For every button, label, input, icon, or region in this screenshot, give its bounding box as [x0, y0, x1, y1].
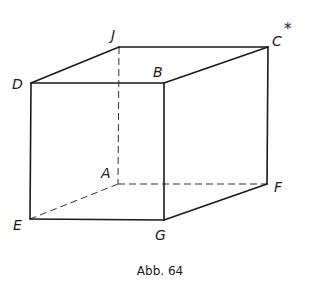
edge-J-A: [118, 47, 119, 184]
vertex-label-C: C: [272, 33, 282, 49]
edge-B-C: [164, 47, 268, 83]
vertex-label-D: D: [12, 76, 23, 92]
vertex-label-B: B: [153, 64, 163, 80]
vertex-label-G: G: [155, 227, 166, 243]
edge-C-F: [267, 47, 268, 184]
edge-E-G: [30, 219, 164, 220]
vertex-label-A: A: [100, 165, 111, 181]
edge-D-E: [30, 83, 31, 219]
vertex-label-F: F: [274, 179, 283, 195]
edge-D-J: [31, 47, 119, 83]
edge-G-F: [164, 184, 267, 220]
vertex-label-C-superscript: *: [284, 20, 292, 38]
figure-caption: Abb. 64: [137, 264, 183, 278]
vertex-label-E: E: [13, 217, 22, 233]
cube-diagram: J D B C * A E G F Abb. 64: [0, 0, 312, 282]
edge-A-E: [30, 184, 118, 219]
vertex-label-J: J: [108, 27, 115, 43]
